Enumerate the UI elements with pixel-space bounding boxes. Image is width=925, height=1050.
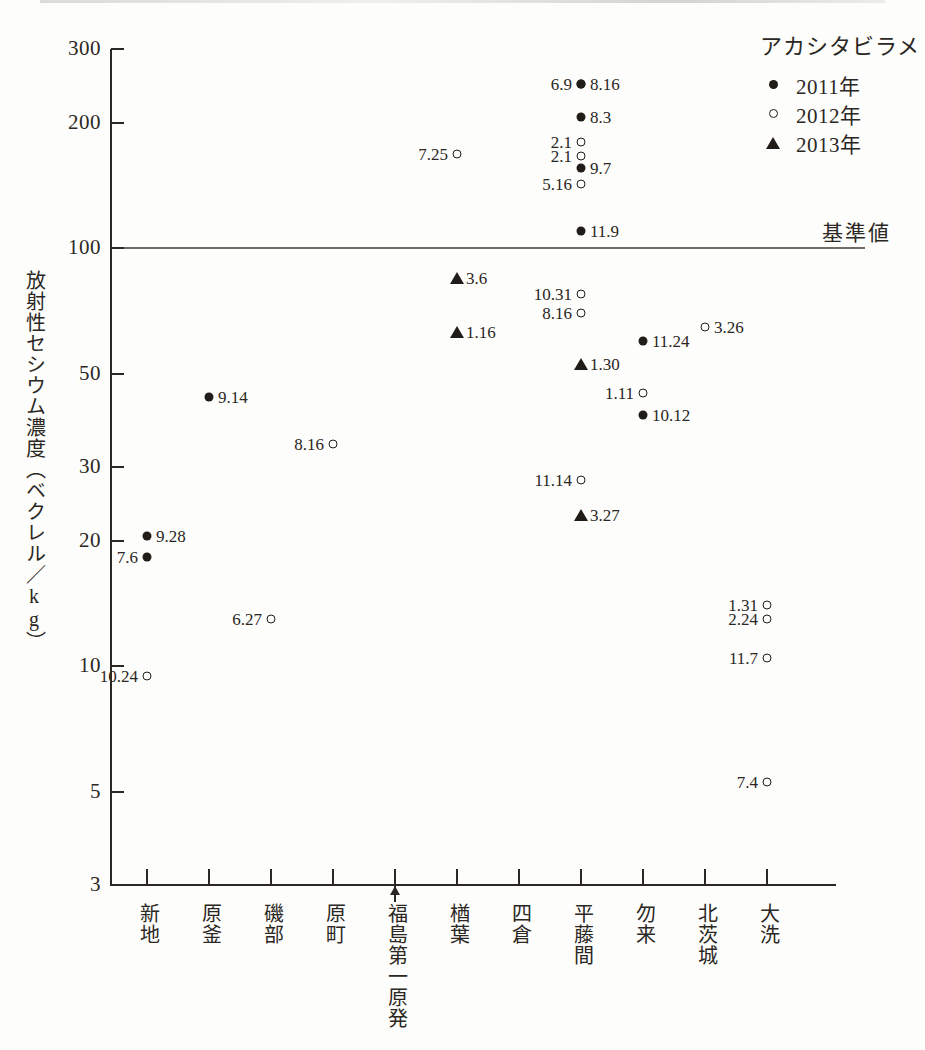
y-tick-label: 100 [6,237,101,258]
y-tick-label: 20 [6,530,101,551]
x-axis-label-楢葉: 楢葉 [446,903,469,945]
y-tick-label: 30 [6,456,101,477]
data-point-label: 8.3 [590,109,611,126]
y-tick-label: 50 [6,363,101,384]
data-point-label: 8.16 [294,436,324,453]
open-circle-icon [760,109,786,118]
reference-line [112,247,865,249]
filled-circle-marker [577,227,586,236]
legend-label-2012: 2012年 [796,99,862,129]
data-point-label: 7.25 [418,146,448,163]
x-axis-label-勿来: 勿来 [632,903,655,945]
legend-item-2013: 2013年 [760,128,920,157]
data-point-label: 5.16 [542,175,572,192]
x-tick-福島第一原発 [394,869,396,885]
x-tick-大洗 [766,869,768,885]
filled-circle-marker [639,337,648,346]
x-tick-平藤間 [580,869,582,885]
y-tick-label: 10 [6,655,101,676]
data-point-label: 10.31 [534,285,572,302]
data-point-label: 3.6 [466,269,487,286]
x-tick-原釜 [208,869,210,885]
open-circle-marker [701,322,710,331]
y-tick-100 [111,247,124,249]
y-tick-3 [111,884,124,886]
legend-title: アカシタビラメ [760,28,920,60]
filled-circle-marker [577,79,586,88]
x-axis-label-原町: 原町 [322,903,345,945]
data-point-label: 6.27 [232,610,262,627]
x-tick-磯部 [270,869,272,885]
x-axis-label-福島第一原発: 福島第一原発 [384,903,407,1029]
filled-triangle-marker [574,358,588,370]
y-tick-5 [111,791,124,793]
x-axis-line [110,884,836,886]
reference-line-label: 基準値 [822,216,891,246]
data-point-label: 2.24 [728,610,758,627]
open-circle-marker [763,601,772,610]
data-point-label: 9.7 [590,159,611,176]
data-point-label: 1.30 [590,355,620,372]
legend-label-2011: 2011年 [796,70,861,100]
y-tick-label: 3 [6,874,101,895]
chart-canvas: 放射性セシウム濃度（ベクレル／kg） 基準値 アカシタビラメ 2011年 201… [0,0,925,1050]
x-axis-label-四倉: 四倉 [508,903,531,945]
x-axis-label-平藤間: 平藤間 [570,903,593,966]
filled-circle-icon [760,80,786,89]
legend-item-2011: 2011年 [760,70,920,99]
data-point-label: 3.26 [714,318,744,335]
filled-circle-marker [577,163,586,172]
page-edge-artifact [40,0,885,3]
y-tick-label: 5 [6,781,101,802]
y-tick-label: 300 [6,38,101,59]
open-circle-marker [577,475,586,484]
data-point-label: 1.16 [466,324,496,341]
npp-arrow-head [390,886,400,895]
filled-circle-marker [577,113,586,122]
open-circle-marker [763,614,772,623]
filled-triangle-marker [450,326,464,338]
filled-triangle-marker [450,272,464,284]
data-point-label: 3.27 [590,507,620,524]
open-circle-marker [453,150,462,159]
data-point-label: 6.9 [551,75,572,92]
x-tick-原町 [332,869,334,885]
open-circle-marker [577,137,586,146]
data-point-label: 10.12 [652,406,690,423]
open-circle-marker [577,289,586,298]
filled-circle-marker [205,393,214,402]
x-tick-楢葉 [456,869,458,885]
x-axis-label-大洗: 大洗 [756,903,779,945]
data-point-label: 1.11 [605,385,634,402]
y-tick-20 [111,540,124,542]
x-tick-新地 [146,869,148,885]
open-circle-marker [577,152,586,161]
filled-triangle-icon [760,137,786,149]
filled-circle-marker [143,532,152,541]
filled-circle-marker [639,410,648,419]
x-tick-四倉 [518,869,520,885]
open-circle-marker [577,179,586,188]
filled-triangle-marker [574,509,588,521]
legend-item-2012: 2012年 [760,99,920,128]
data-point-label: 10.24 [100,667,138,684]
data-point-label: 7.4 [737,773,758,790]
data-point-label: 2.1 [551,148,572,165]
data-point-label: 8.16 [542,305,572,322]
legend: アカシタビラメ 2011年 2012年 2013年 [760,28,920,157]
x-tick-勿来 [642,869,644,885]
x-axis-label-磯部: 磯部 [260,903,283,945]
x-axis-label-新地: 新地 [136,903,159,945]
open-circle-marker [639,389,648,398]
data-point-label: 11.7 [729,649,758,666]
y-tick-label: 200 [6,112,101,133]
data-point-label: 11.9 [590,223,619,240]
y-tick-50 [111,373,124,375]
filled-circle-marker [143,552,152,561]
data-point-label: 11.14 [534,471,572,488]
data-point-label: 7.6 [117,548,138,565]
open-circle-marker [143,671,152,680]
open-circle-marker [267,614,276,623]
data-point-label: 9.28 [156,528,186,545]
open-circle-marker [763,777,772,786]
